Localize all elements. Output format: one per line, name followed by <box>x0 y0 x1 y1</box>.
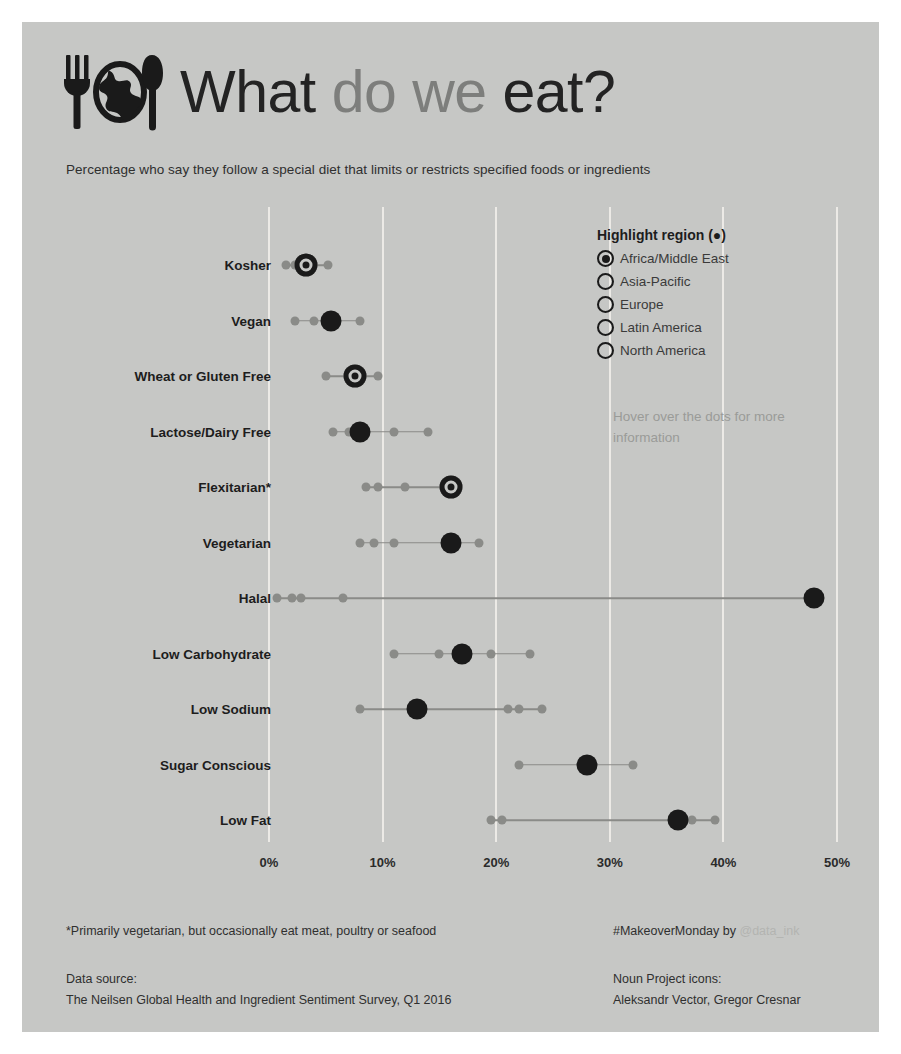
data-dot[interactable] <box>401 483 410 492</box>
highlighted-data-dot[interactable] <box>349 421 370 442</box>
data-dot[interactable] <box>514 760 523 769</box>
category-label: Sugar Conscious <box>66 757 271 772</box>
data-dot[interactable] <box>374 372 383 381</box>
category-label: Vegetarian <box>66 535 271 550</box>
category-label: Kosher <box>66 258 271 273</box>
legend-title: Highlight region (●) <box>597 227 857 243</box>
data-dot[interactable] <box>355 316 364 325</box>
data-dot[interactable] <box>328 427 337 436</box>
data-dot[interactable] <box>503 705 512 714</box>
data-dot[interactable] <box>389 538 398 547</box>
icon-credit-value: Aleksandr Vector, Gregor Cresnar <box>613 990 801 1011</box>
highlighted-data-dot[interactable] <box>440 532 461 553</box>
legend-option-2[interactable]: Europe <box>597 293 857 316</box>
legend-option-label: Asia-Pacific <box>620 274 691 289</box>
x-tick-label: 30% <box>597 855 623 870</box>
data-dot[interactable] <box>486 816 495 825</box>
x-tick-label: 20% <box>483 855 509 870</box>
data-dot[interactable] <box>287 594 296 603</box>
icon-credit-label: Noun Project icons: <box>613 969 801 990</box>
subtitle: Percentage who say they follow a special… <box>66 162 650 177</box>
highlighted-data-dot[interactable] <box>804 588 825 609</box>
data-dot[interactable] <box>321 372 330 381</box>
gridline-0% <box>268 207 270 842</box>
data-dot[interactable] <box>272 594 281 603</box>
data-dot[interactable] <box>361 483 370 492</box>
radio-button-icon[interactable] <box>597 319 614 336</box>
x-tick-label: 0% <box>260 855 279 870</box>
data-source: Data source: The Neilsen Global Health a… <box>66 969 451 1010</box>
category-label: Flexitarian* <box>66 480 271 495</box>
category-label: Halal <box>66 591 271 606</box>
data-dot[interactable] <box>711 816 720 825</box>
data-dot[interactable] <box>324 261 333 270</box>
data-dot[interactable] <box>374 483 383 492</box>
data-dot[interactable] <box>338 594 347 603</box>
data-dot[interactable] <box>486 649 495 658</box>
legend-options[interactable]: Africa/Middle EastAsia-PacificEuropeLati… <box>597 247 857 362</box>
data-dot[interactable] <box>369 538 378 547</box>
data-dot[interactable] <box>282 261 291 270</box>
data-dot[interactable] <box>537 705 546 714</box>
highlighted-data-dot[interactable] <box>321 310 342 331</box>
data-dot[interactable] <box>424 427 433 436</box>
data-dot[interactable] <box>628 760 637 769</box>
data-dot[interactable] <box>355 538 364 547</box>
range-connector <box>277 597 814 599</box>
highlighted-data-dot[interactable] <box>452 643 473 664</box>
highlight-region-legend: Highlight region (●) Africa/Middle EastA… <box>597 227 857 362</box>
legend-option-label: Africa/Middle East <box>620 251 729 266</box>
gridline-20% <box>495 207 497 842</box>
legend-option-label: North America <box>620 343 706 358</box>
infographic-canvas: What do we eat? Percentage who say they … <box>22 22 879 1032</box>
data-dot[interactable] <box>291 316 300 325</box>
highlighted-data-dot[interactable] <box>406 699 427 720</box>
hashtag-text: #MakeoverMonday by <box>613 924 739 938</box>
footnote: *Primarily vegetarian, but occasionally … <box>66 924 436 938</box>
page-title: What do we eat? <box>180 63 615 122</box>
data-dot[interactable] <box>389 649 398 658</box>
header: What do we eat? <box>62 42 852 142</box>
data-dot[interactable] <box>514 705 523 714</box>
radio-button-icon[interactable] <box>597 296 614 313</box>
legend-option-4[interactable]: North America <box>597 339 857 362</box>
highlighted-data-dot[interactable] <box>667 810 688 831</box>
data-dot[interactable] <box>389 427 398 436</box>
data-dot[interactable] <box>355 705 364 714</box>
data-dot[interactable] <box>475 538 484 547</box>
gridline-10% <box>382 207 384 842</box>
highlighted-data-dot[interactable] <box>439 476 462 499</box>
title-part-1: What <box>180 59 316 125</box>
legend-option-label: Latin America <box>620 320 702 335</box>
category-label: Low Carbohydrate <box>66 646 271 661</box>
radio-button-icon[interactable] <box>597 273 614 290</box>
fork-globe-knife-icon <box>62 53 170 131</box>
category-label: Wheat or Gluten Free <box>66 369 271 384</box>
highlighted-data-dot[interactable] <box>295 254 318 277</box>
category-label: Vegan <box>66 313 271 328</box>
highlighted-data-dot[interactable] <box>577 754 598 775</box>
category-label: Low Fat <box>66 813 271 828</box>
category-label: Lactose/Dairy Free <box>66 424 271 439</box>
legend-option-label: Europe <box>620 297 664 312</box>
legend-option-0[interactable]: Africa/Middle East <box>597 247 857 270</box>
legend-option-3[interactable]: Latin America <box>597 316 857 339</box>
data-source-value: The Neilsen Global Health and Ingredient… <box>66 990 451 1011</box>
x-tick-label: 10% <box>370 855 396 870</box>
data-dot[interactable] <box>296 594 305 603</box>
highlighted-data-dot[interactable] <box>344 365 367 388</box>
category-label: Low Sodium <box>66 702 271 717</box>
hashtag-credit: #MakeoverMonday by @data_ink <box>613 924 799 938</box>
data-dot[interactable] <box>526 649 535 658</box>
radio-button-icon[interactable] <box>597 250 614 267</box>
hover-hint-text: Hover over the dots for more information <box>613 407 823 449</box>
data-dot[interactable] <box>310 316 319 325</box>
title-part-2: do we <box>332 59 487 125</box>
legend-option-1[interactable]: Asia-Pacific <box>597 270 857 293</box>
data-dot[interactable] <box>435 649 444 658</box>
radio-button-icon[interactable] <box>597 342 614 359</box>
x-tick-label: 50% <box>824 855 850 870</box>
data-dot[interactable] <box>497 816 506 825</box>
title-part-3: eat? <box>502 59 615 125</box>
data-source-label: Data source: <box>66 969 451 990</box>
